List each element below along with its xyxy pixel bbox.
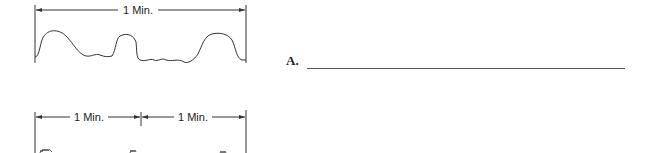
answer-blank-line[interactable] <box>307 54 625 69</box>
dimension-label-bottom-right: 1 Min. <box>178 111 208 123</box>
question-label: A. <box>286 53 299 69</box>
dimension-label-bottom-left: 1 Min. <box>74 111 104 123</box>
answer-row-a: A. <box>286 53 625 69</box>
waveform-trace-bottom <box>40 149 226 153</box>
waveform-diagram-bottom: 1 Min. 1 Min. <box>0 0 260 153</box>
